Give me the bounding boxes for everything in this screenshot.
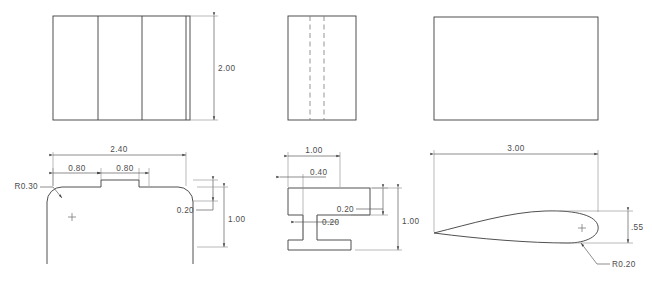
dim-label-bottom-middle-web-thickness: 0.20 [322, 218, 339, 227]
bottom-left-profile-outline [47, 180, 193, 264]
bottom-right-airfoil-outline [434, 211, 598, 243]
dim-label-bottom-middle-flange-thickness: 0.20 [337, 205, 354, 214]
dim-label-bottom-left-overall-width: 2.40 [110, 145, 127, 154]
dim-label-bottom-middle-web-offset: 0.40 [310, 168, 327, 177]
bottom-left-dim-overall-height: 1.00 [197, 187, 245, 247]
bottom-middle-dim-flange-thickness: 0.20 [337, 188, 388, 215]
bottom-right-dim-thickness: .55 [560, 211, 644, 243]
view-bottom-left: R0.30 2.40 0.80 0.80 [14, 145, 245, 264]
dim-label-bottom-middle-overall-height: 1.00 [402, 217, 419, 226]
bottom-middle-dim-web-thickness: 0.20 [295, 215, 339, 227]
view-bottom-middle: 1.00 0.40 0.20 0.20 [280, 146, 419, 250]
view-top-right [434, 17, 598, 120]
top-middle-outer-rect [288, 16, 356, 120]
top-left-outer-rect [53, 16, 190, 120]
bottom-left-dim-left-step: 0.80 [53, 164, 101, 186]
bottom-middle-dim-overall-height: 1.00 [355, 188, 419, 250]
dim-label-bottom-left-boss-height: 0.20 [177, 206, 194, 215]
drawing-sheet: 2.00 R0.30 [0, 0, 652, 290]
bottom-left-dim-boss-height: 0.20 [177, 180, 218, 215]
bottom-middle-dim-flange-width: 1.00 [288, 146, 340, 187]
dim-label-bottom-right-chord: 3.00 [507, 144, 524, 153]
bottom-right-radius-leader: R0.20 [581, 243, 636, 269]
dim-label-bottom-right-thickness: .55 [631, 223, 644, 232]
bottom-left-dim-right-step: 0.80 [101, 164, 149, 186]
dim-label-bottom-right-radius: R0.20 [612, 260, 636, 269]
bottom-left-radius-leader: R0.30 [14, 182, 62, 198]
view-top-middle [288, 16, 356, 120]
bottom-middle-dim-web-offset: 0.40 [280, 168, 327, 240]
bottom-right-center-mark [578, 224, 586, 232]
dim-label-bottom-left-overall-height: 1.00 [228, 215, 245, 224]
dim-label-bottom-left-radius: R0.30 [14, 182, 38, 191]
technical-drawing-canvas: 2.00 R0.30 [0, 0, 652, 290]
dim-label-bottom-left-left-step: 0.80 [68, 164, 85, 173]
top-right-outer-rect [434, 17, 598, 120]
dim-label-bottom-left-right-step: 0.80 [116, 164, 133, 173]
view-top-left: 2.00 [53, 16, 235, 120]
dim-label-bottom-middle-flange-width: 1.00 [305, 146, 322, 155]
dim-label-top-left-height: 2.00 [218, 64, 235, 73]
bottom-right-dim-chord: 3.00 [434, 144, 598, 232]
bottom-left-center-mark [68, 213, 76, 221]
view-bottom-right: 3.00 .55 R0.20 [434, 144, 644, 269]
